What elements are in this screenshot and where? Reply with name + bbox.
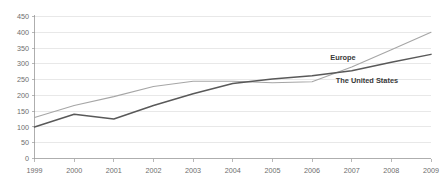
- y-tick-label: 350: [17, 44, 29, 53]
- x-tick-label: 2008: [383, 166, 399, 175]
- chart-canvas: 050100150200250300350400450 199920002001…: [0, 0, 442, 191]
- y-tick-label: 300: [17, 59, 29, 68]
- x-tick-label: 2002: [145, 166, 161, 175]
- x-tick-label: 2003: [185, 166, 201, 175]
- series-label-europe: Europe: [330, 53, 355, 62]
- x-axis-tick-marks: [35, 159, 432, 162]
- y-tick-label: 250: [17, 75, 29, 84]
- y-tick-label: 400: [17, 28, 29, 37]
- y-tick-label: 150: [17, 107, 29, 116]
- x-tick-label: 2006: [304, 166, 320, 175]
- x-tick-label: 2000: [66, 166, 82, 175]
- series-line-the-united-states: [35, 54, 432, 127]
- x-tick-label: 2009: [423, 166, 439, 175]
- x-tick-label: 2007: [344, 166, 360, 175]
- line-chart: 050100150200250300350400450 199920002001…: [0, 0, 442, 191]
- x-tick-label: 2001: [106, 166, 122, 175]
- y-tick-label: 50: [21, 138, 29, 147]
- y-axis-tick-labels: 050100150200250300350400450: [17, 12, 29, 163]
- y-tick-label: 450: [17, 12, 29, 21]
- series-label-united-states: The United States: [336, 76, 398, 85]
- x-tick-label: 2004: [225, 166, 241, 175]
- x-axis-tick-labels: 1999200020012002200320042005200620072008…: [27, 166, 440, 175]
- y-tick-label: 200: [17, 91, 29, 100]
- x-tick-label: 2005: [264, 166, 280, 175]
- x-tick-label: 1999: [27, 166, 43, 175]
- y-tick-label: 0: [25, 154, 29, 163]
- y-tick-label: 100: [17, 123, 29, 132]
